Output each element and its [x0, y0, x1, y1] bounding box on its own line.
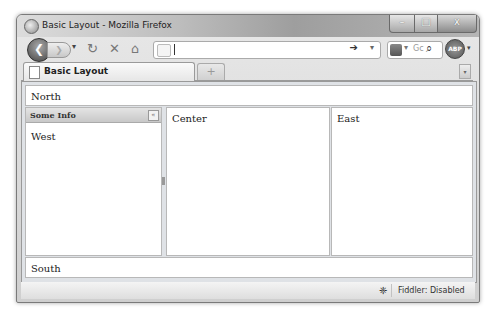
- search-engine-icon[interactable]: [390, 44, 402, 56]
- tab-label: Basic Layout: [44, 66, 108, 76]
- fiddler-status[interactable]: Fiddler: Disabled: [398, 286, 465, 295]
- url-bar[interactable]: ➔ ▾: [153, 41, 381, 59]
- close-button[interactable]: x: [437, 15, 477, 33]
- south-region: South: [25, 257, 473, 278]
- history-dropdown-icon[interactable]: ▾: [72, 42, 76, 51]
- forward-button[interactable]: ❯: [47, 42, 71, 58]
- center-text: Center: [172, 113, 207, 124]
- west-text: West: [31, 131, 56, 142]
- forward-arrow-icon: ❯: [55, 45, 63, 55]
- adblock-dropdown-icon[interactable]: ▾: [467, 44, 471, 52]
- west-panel-title: Some Info: [30, 110, 76, 120]
- north-text: North: [31, 91, 61, 102]
- url-input[interactable]: [176, 43, 326, 55]
- search-box[interactable]: ▾ Gc ⌕: [387, 41, 443, 59]
- go-arrow-icon[interactable]: ➔: [350, 42, 358, 53]
- status-bar: ❈ Fiddler: Disabled: [21, 282, 475, 299]
- page-icon: [29, 66, 40, 79]
- status-separator: [391, 284, 392, 297]
- west-panel-header: Some Info «: [26, 108, 161, 123]
- reload-icon[interactable]: ↻: [87, 41, 98, 56]
- fiddler-icon[interactable]: ❈: [379, 285, 387, 296]
- north-region: North: [25, 85, 473, 106]
- new-tab-button[interactable]: +: [197, 63, 225, 80]
- south-text: South: [31, 263, 61, 274]
- page-content: North Some Info « West Center East South: [21, 81, 477, 283]
- splitter-handle[interactable]: [162, 177, 165, 185]
- stop-icon[interactable]: ✕: [109, 41, 120, 56]
- search-engine-dropdown-icon[interactable]: ▾: [404, 43, 408, 52]
- maximize-button[interactable]: □: [414, 15, 438, 33]
- west-region: Some Info « West: [25, 107, 162, 256]
- west-splitter[interactable]: [162, 107, 165, 254]
- minimize-button[interactable]: –: [389, 15, 415, 33]
- east-region: East: [331, 107, 473, 256]
- close-icon: x: [438, 16, 476, 27]
- collapse-icon[interactable]: «: [148, 110, 159, 121]
- firefox-icon: [24, 19, 39, 34]
- back-arrow-icon: ❮: [34, 42, 44, 56]
- home-icon[interactable]: ⌂: [131, 41, 139, 56]
- title-bar: Basic Layout - Mozilla Firefox – □ x: [17, 15, 479, 37]
- maximize-icon: □: [415, 16, 437, 27]
- site-identity-icon[interactable]: [157, 44, 171, 57]
- url-dropdown-icon[interactable]: ▾: [370, 43, 374, 52]
- search-icon[interactable]: ⌕: [426, 42, 432, 55]
- center-region: Center: [166, 107, 330, 256]
- adblock-plus-button[interactable]: ABP: [445, 39, 465, 59]
- browser-window: Basic Layout - Mozilla Firefox – □ x ❮ ❯…: [16, 14, 480, 303]
- tab-list-button[interactable]: ▾: [459, 64, 471, 79]
- tab-basic-layout[interactable]: Basic Layout: [23, 62, 195, 81]
- search-placeholder: Gc: [413, 44, 424, 53]
- window-title: Basic Layout - Mozilla Firefox: [42, 20, 172, 30]
- tab-strip: Basic Layout + ▾: [21, 62, 473, 81]
- text-caret: [174, 44, 175, 55]
- minimize-icon: –: [390, 16, 414, 27]
- navigation-toolbar: ❮ ❯ ▾ ↻ ✕ ⌂ ➔ ▾ ▾ Gc ⌕ ABP ▾: [21, 38, 473, 60]
- east-text: East: [337, 113, 359, 124]
